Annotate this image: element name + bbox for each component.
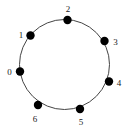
graph-node[interactable] [105, 77, 113, 85]
node-group [16, 16, 113, 113]
graph-node[interactable] [16, 67, 24, 75]
node-label: 1 [19, 30, 24, 39]
graph-node[interactable] [76, 105, 84, 113]
node-label: 5 [79, 117, 84, 126]
node-label: 4 [117, 79, 122, 88]
circle-graph-figure: 0123456 [0, 0, 128, 136]
graph-canvas [0, 0, 128, 136]
node-label: 0 [7, 67, 12, 76]
graph-node[interactable] [100, 37, 108, 45]
node-label: 2 [66, 5, 71, 14]
graph-node[interactable] [26, 31, 34, 39]
graph-node[interactable] [63, 16, 71, 24]
node-label: 3 [113, 38, 118, 47]
graph-node[interactable] [34, 101, 42, 109]
node-label: 6 [33, 115, 38, 124]
